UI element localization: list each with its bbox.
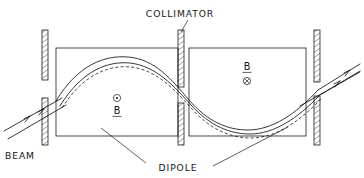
dipole-label: DIPOLE: [159, 162, 198, 173]
collimator-middle-upper-jaw: [178, 30, 184, 87]
beam-outgoing-ray-lower: [300, 72, 360, 106]
field-left-symbol: B: [114, 105, 121, 116]
dipole-left-box: [56, 48, 178, 136]
beam-in-arrowhead-lower: [24, 116, 30, 122]
collimator-label: COLLIMATOR: [146, 8, 214, 19]
field-right-symbol: B: [244, 61, 251, 72]
collimator-entrance-lower-jaw: [42, 98, 48, 145]
dipole-leader-line-left: [101, 128, 146, 163]
beam-optics-diagram: B B COLLIMATOR DIPOLE BEAM: [0, 0, 364, 178]
collimator-leader-line: [181, 20, 188, 32]
beam-out-arrowhead-upper: [344, 70, 350, 76]
beam-incoming-ray-upper: [4, 98, 62, 131]
collimator-entrance-upper-jaw: [42, 30, 48, 80]
collimator-middle-lower-jaw: [178, 103, 184, 145]
beam-label: BEAM: [5, 150, 35, 161]
field-out-of-page-dot-icon: [116, 97, 118, 99]
beam-incoming-ray-lower: [8, 105, 66, 139]
dipole-leader-line-right: [213, 127, 288, 166]
diagram-canvas: B B COLLIMATOR DIPOLE BEAM: [0, 0, 364, 178]
collimator-exit-upper-jaw: [314, 30, 320, 82]
